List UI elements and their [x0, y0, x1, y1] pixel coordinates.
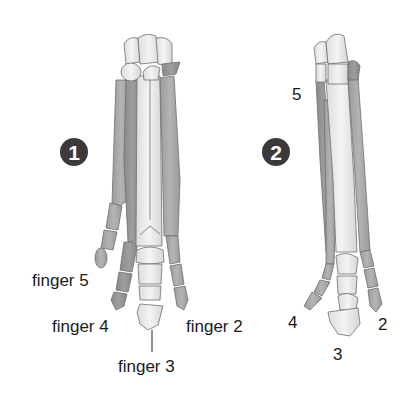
label-digit-4: 4 — [288, 314, 297, 331]
diagram-canvas: 1 2 finger 5 finger 4 finger 2 finger 3 … — [0, 0, 420, 403]
figure-1-skeleton — [95, 34, 188, 330]
figure-2-badge: 2 — [262, 138, 290, 166]
label-finger-3: finger 3 — [118, 358, 175, 375]
label-finger-2: finger 2 — [186, 318, 243, 335]
label-digit-3: 3 — [333, 346, 342, 363]
badge-number: 1 — [68, 142, 80, 163]
label-finger-5: finger 5 — [32, 272, 89, 289]
label-digit-5: 5 — [292, 86, 301, 103]
badge-number: 2 — [270, 142, 282, 163]
label-finger-4: finger 4 — [52, 318, 109, 335]
figure-1-badge: 1 — [60, 138, 88, 166]
figure-2-skeleton — [304, 34, 382, 336]
label-digit-2: 2 — [378, 316, 387, 333]
